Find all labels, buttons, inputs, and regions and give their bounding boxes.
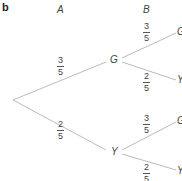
leaf-G-Y: Y [177, 74, 182, 85]
prob-G-G: 3 5 [143, 22, 150, 43]
prob-Y-G: 3 5 [143, 114, 150, 135]
numerator: 2 [58, 120, 63, 129]
leaf-G-G: G [177, 26, 182, 37]
numerator: 3 [58, 56, 63, 65]
prob-root-G: 3 5 [57, 56, 64, 77]
denominator: 5 [144, 84, 149, 93]
numerator: 3 [144, 22, 149, 31]
column-header-b: B [143, 4, 150, 15]
node-A-G: G [110, 54, 118, 65]
prob-G-Y: 2 5 [143, 72, 150, 93]
leaf-Y-G: G [177, 115, 182, 126]
prob-root-Y: 2 5 [57, 120, 64, 141]
denominator: 5 [58, 68, 63, 77]
numerator: 2 [144, 163, 149, 172]
denominator: 5 [58, 132, 63, 141]
leaf-Y-Y: Y [177, 165, 182, 176]
denominator: 5 [144, 175, 149, 181]
numerator: 2 [144, 72, 149, 81]
prob-Y-Y: 2 5 [143, 163, 150, 181]
column-header-a: A [57, 4, 64, 15]
denominator: 5 [144, 126, 149, 135]
numerator: 3 [144, 114, 149, 123]
part-label: b [2, 1, 9, 13]
tree-branches [0, 0, 182, 181]
node-A-Y: Y [111, 146, 118, 157]
denominator: 5 [144, 34, 149, 43]
